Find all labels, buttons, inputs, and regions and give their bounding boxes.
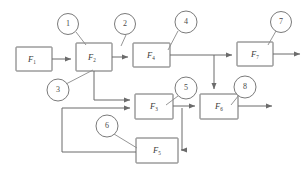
callout-1-label: 1 — [66, 19, 70, 28]
block-f7: F7 — [237, 42, 273, 66]
block-f4: F4 — [133, 43, 170, 67]
block-f1: F1 — [16, 47, 52, 71]
callout-2-leader — [121, 35, 126, 46]
block-f3-sub: 3 — [155, 106, 158, 112]
callout-6-label: 6 — [105, 121, 109, 130]
block-f7-sub: 7 — [256, 54, 259, 60]
block-f2-sub: 2 — [93, 57, 96, 63]
block-f5-sub: 5 — [158, 150, 161, 156]
callout-8: 8 — [234, 76, 256, 98]
block-f4-sub: 4 — [152, 55, 155, 61]
callout-6-leader — [114, 134, 137, 148]
block-layer: F1 F2 F4 F7 — [16, 42, 273, 163]
block-f2: F2 — [76, 43, 112, 71]
callout-3-label: 3 — [56, 85, 60, 94]
callout-layer: 1 2 4 7 3 — [47, 11, 292, 148]
callout-8-label: 8 — [243, 82, 247, 91]
block-f5: F5 — [136, 138, 178, 163]
block-f1-sub: 1 — [33, 59, 36, 65]
block-flow-diagram: F1 F2 F4 F7 — [0, 0, 307, 173]
callout-6: 6 — [96, 115, 118, 137]
edge-f2-branch-to-f3 — [94, 71, 130, 100]
callout-5: 5 — [175, 77, 197, 99]
callout-7: 7 — [271, 12, 292, 33]
callout-2-label: 2 — [123, 19, 127, 28]
callout-4-label: 4 — [184, 17, 188, 26]
block-f6-sub: 6 — [220, 106, 223, 112]
callout-1: 1 — [58, 14, 79, 35]
callout-7-label: 7 — [279, 17, 283, 26]
callout-3-leader — [66, 70, 93, 84]
block-f6: F6 — [200, 94, 238, 119]
block-f3: F3 — [135, 94, 173, 119]
callout-3: 3 — [47, 79, 69, 101]
callout-2: 2 — [115, 14, 136, 35]
callout-4: 4 — [175, 11, 197, 33]
callout-4-leader — [168, 31, 178, 50]
callout-5-label: 5 — [184, 83, 188, 92]
diagram-canvas: F1 F2 F4 F7 — [0, 0, 307, 173]
